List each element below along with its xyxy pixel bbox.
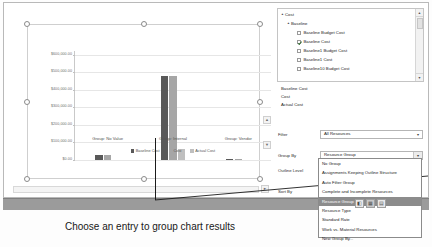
group-by-value: Resource Group	[321, 153, 413, 157]
chart-horizontal-scrollbar[interactable]	[13, 186, 259, 193]
chart-y-tick-label: $100,000.00	[51, 141, 72, 145]
chart-pane: $600,000.00$500,000.00$400,000.00$300,00…	[9, 6, 273, 196]
chart-bar[interactable]	[161, 76, 169, 160]
chart-plot-area: $600,000.00$500,000.00$400,000.00$300,00…	[75, 51, 271, 160]
chart-scroll-down-button[interactable]: ▼	[263, 141, 271, 149]
field-checkbox[interactable]	[297, 67, 301, 71]
chart-y-tick	[73, 72, 75, 73]
chart-y-tick-label: $200,000.00	[51, 123, 72, 127]
field-checkbox[interactable]	[297, 31, 301, 35]
chevron-up-icon: ▲	[418, 11, 421, 15]
chart-scroll-right-button[interactable]: ►	[261, 185, 269, 193]
dropdown-item[interactable]: Assignments Keeping Outline Structure	[319, 169, 421, 178]
field-tree-label: Baseline Cost	[303, 40, 330, 44]
field-tree-label: Baseline Budget Cost	[303, 31, 344, 35]
chart-category-label: Group: Internal	[159, 137, 187, 141]
field-tree-scrollbar[interactable]: ▲ ▼	[415, 9, 423, 81]
chart-scroll-up-button[interactable]: ▲	[263, 116, 271, 124]
chart-y-tick	[73, 160, 75, 161]
field-tree-rows: ▴Cost▴BaselineBaseline Budget CostBaseli…	[278, 9, 423, 74]
chart-category-label: Group: No Value	[92, 137, 123, 141]
legend-label: Baseline Cost	[136, 149, 160, 153]
field-tree-scroll-down[interactable]: ▼	[416, 73, 423, 81]
selected-field-item[interactable]: Cost	[277, 93, 424, 101]
resize-handle[interactable]	[257, 21, 263, 27]
selected-field-item[interactable]: Actual Cost	[277, 101, 424, 109]
chevron-down-icon: ▼	[265, 142, 269, 147]
chart-view-icon[interactable]: ◧	[355, 199, 364, 208]
chevron-down-icon[interactable]: ▼	[414, 131, 422, 138]
field-tree-scroll-up[interactable]: ▲	[416, 9, 423, 17]
field-tree-row[interactable]: Baseline10 Budget Cost	[280, 65, 423, 74]
chart-y-tick	[73, 55, 75, 56]
callout-line-vertical	[155, 138, 156, 200]
field-tree-label: Baseline1 Cost	[303, 58, 332, 62]
chart-bar[interactable]	[104, 155, 112, 160]
chart-selection-frame[interactable]: $600,000.00$500,000.00$400,000.00$300,00…	[27, 24, 260, 179]
chart-category-label: Group: Vendor	[225, 137, 252, 141]
selected-field-item[interactable]: Baseline Cost	[277, 85, 424, 93]
chart-y-tick	[73, 125, 75, 126]
chart-bar[interactable]	[95, 155, 103, 160]
caption-area: Choose an entry to group chart results	[0, 212, 300, 240]
chart-y-tick-label: $400,000.00	[51, 88, 72, 92]
table-view-icon[interactable]: ▤	[377, 199, 386, 208]
chart-y-tick	[73, 107, 75, 108]
chart-y-tick	[73, 90, 75, 91]
chart-gridline	[75, 160, 271, 161]
field-checkbox[interactable]	[297, 40, 301, 44]
resize-handle[interactable]	[24, 176, 30, 182]
field-tree-row[interactable]: Baseline1 Cost	[280, 56, 423, 65]
resize-handle[interactable]	[24, 99, 30, 105]
chart-legend: Baseline CostCostActual Cost	[75, 149, 271, 153]
chevron-up-icon: ▲	[265, 117, 269, 122]
field-tree[interactable]: ▴Cost▴BaselineBaseline Budget CostBaseli…	[277, 8, 424, 82]
chart-y-tick	[73, 142, 75, 143]
group-by-label: Group By	[278, 154, 296, 158]
sort-by-label: Sort By	[278, 190, 292, 194]
dropdown-item[interactable]: Auto Filter Group	[319, 178, 421, 187]
field-tree-row[interactable]: Baseline Cost	[280, 38, 423, 47]
group-by-dropdown-list[interactable]: No GroupAssignments Keeping Outline Stru…	[318, 158, 422, 238]
filter-label: Filter	[278, 133, 288, 137]
field-tree-label: Cost	[285, 13, 294, 17]
dropdown-item[interactable]: Work vs. Material Resources	[319, 225, 421, 234]
dropdown-item[interactable]: Complete and Incomplete Resources	[319, 188, 421, 197]
field-tree-row[interactable]: ▴Baseline	[280, 20, 423, 29]
field-tree-label: Baseline	[291, 22, 307, 26]
field-tree-label: Baseline10 Budget Cost	[303, 67, 349, 71]
legend-item: Actual Cost	[190, 149, 215, 153]
filter-combo[interactable]: All Resources ▼	[320, 130, 423, 139]
outline-level-label: Outline Level	[278, 169, 303, 173]
dropdown-item[interactable]: New Group By...	[319, 235, 421, 244]
legend-label: Cost	[173, 149, 181, 153]
legend-swatch	[190, 149, 193, 152]
field-tree-row[interactable]: Baseline Budget Cost	[280, 29, 423, 38]
selected-fields-list: Baseline CostCostActual Cost	[277, 85, 424, 109]
legend-label: Actual Cost	[195, 149, 215, 153]
field-tree-row[interactable]: Baseline1 Budget Cost	[280, 47, 423, 56]
field-tree-label: Baseline1 Budget Cost	[303, 49, 347, 53]
dropdown-item[interactable]: No Group	[319, 160, 421, 169]
field-checkbox[interactable]	[297, 58, 301, 62]
chart-y-tick-label: $500,000.00	[51, 70, 72, 74]
legend-item: Cost	[169, 149, 182, 153]
dropdown-item[interactable]: Standard Rate	[319, 216, 421, 225]
chart-bar[interactable]	[226, 159, 234, 160]
chart-y-tick-label: $300,000.00	[51, 105, 72, 109]
grid-view-icon[interactable]: ▦	[366, 199, 375, 208]
field-checkbox[interactable]	[297, 49, 301, 53]
resize-handle[interactable]	[24, 21, 30, 27]
resize-handle[interactable]	[257, 176, 263, 182]
chart-gridline	[75, 55, 271, 56]
chevron-down-icon: ▼	[418, 76, 421, 80]
chart-gridline	[75, 72, 271, 73]
resize-handle[interactable]	[141, 176, 147, 182]
resize-handle[interactable]	[257, 99, 263, 105]
status-bar-view-icons[interactable]: ◧▦▤	[355, 199, 386, 208]
chart-bar[interactable]	[235, 159, 243, 160]
field-tree-row[interactable]: ▴Cost	[280, 11, 423, 20]
filter-value: All Resources	[321, 132, 414, 136]
field-tree-scroll-thumb[interactable]	[417, 18, 423, 29]
resize-handle[interactable]	[141, 21, 147, 27]
